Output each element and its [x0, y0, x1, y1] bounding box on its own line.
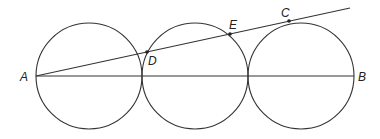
label-c: C	[281, 6, 290, 20]
point-e	[228, 32, 232, 36]
label-e: E	[229, 18, 238, 32]
label-d: D	[148, 54, 157, 68]
label-a: A	[19, 70, 28, 84]
tangent-line-ac	[36, 8, 350, 76]
geometry-diagram: A B C D E	[0, 0, 380, 139]
label-b: B	[358, 70, 366, 84]
